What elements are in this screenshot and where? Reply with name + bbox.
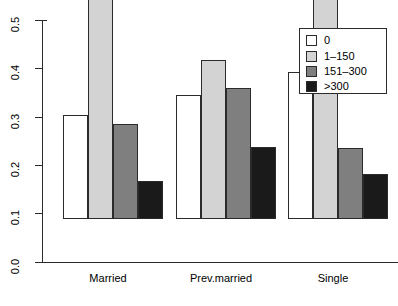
x-axis-label-prev-married: Prev.married <box>190 272 252 284</box>
bar-single-series-0 <box>288 72 313 219</box>
bar-married-series-3 <box>138 181 163 219</box>
legend-label-0: 0 <box>324 35 330 46</box>
y-tick-label-1: 0.1 <box>0 207 31 218</box>
y-tick-label-2: 0.2 <box>0 159 31 170</box>
y-tick-label-4-text: 0.4 <box>10 65 21 80</box>
legend-label-2: 151–300 <box>324 66 367 77</box>
bar-chart: 0.0 0.1 0.2 0.3 0.4 0.5 Married Prev.mar… <box>0 0 398 306</box>
y-tick-label-0-text: 0.0 <box>10 259 21 274</box>
bar-prev-married-series-0 <box>176 95 201 219</box>
y-tick-2 <box>35 165 42 166</box>
legend-swatch-2 <box>306 66 317 77</box>
x-axis-label-single: Single <box>318 272 349 284</box>
legend-item-1: 1–150 <box>306 49 355 63</box>
x-axis-label-married: Married <box>89 272 126 284</box>
legend-swatch-0 <box>306 35 317 46</box>
legend-item-3: >300 <box>306 79 349 93</box>
y-tick-0 <box>35 262 42 263</box>
bar-single-series-3 <box>363 174 388 219</box>
y-tick-5 <box>35 20 42 21</box>
y-tick-label-5: 0.5 <box>0 14 31 25</box>
y-tick-1 <box>35 213 42 214</box>
y-tick-label-4: 0.4 <box>0 62 31 73</box>
legend-swatch-1 <box>306 51 317 62</box>
legend-label-3: >300 <box>324 81 349 92</box>
legend-item-0: 0 <box>306 33 330 47</box>
y-tick-3 <box>35 117 42 118</box>
legend-swatch-3 <box>306 81 317 92</box>
x-axis-baseline <box>42 262 398 263</box>
bar-single-series-2 <box>338 148 363 219</box>
y-tick-4 <box>35 68 42 69</box>
legend-item-2: 151–300 <box>306 64 367 78</box>
bar-married-series-2 <box>113 124 138 219</box>
bar-prev-married-series-3 <box>251 147 276 219</box>
bar-married-series-1 <box>88 0 113 219</box>
y-tick-label-3: 0.3 <box>0 111 31 122</box>
y-tick-label-0: 0.0 <box>0 256 31 267</box>
bar-prev-married-series-1 <box>201 60 226 219</box>
y-tick-label-2-text: 0.2 <box>10 162 21 177</box>
bar-married-series-0 <box>63 115 88 219</box>
legend-label-1: 1–150 <box>324 51 355 62</box>
y-tick-label-3-text: 0.3 <box>10 114 21 129</box>
y-tick-label-1-text: 0.1 <box>10 210 21 225</box>
y-tick-label-5-text: 0.5 <box>10 17 21 32</box>
legend: 0 1–150 151–300 >300 <box>299 28 387 94</box>
bar-prev-married-series-2 <box>226 88 251 219</box>
